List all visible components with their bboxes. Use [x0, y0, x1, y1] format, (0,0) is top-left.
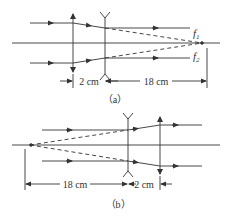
focal-point — [30, 144, 33, 147]
focus-label-f2: f2 — [193, 50, 200, 64]
optics-diagram: f1 f2 2 cm 18 cm （a） — [0, 0, 235, 222]
dim-label-2cm-a: 2 cm — [79, 76, 99, 87]
figure-a — [12, 12, 220, 88]
dim-label-2cm-b: 2 cm — [134, 179, 154, 190]
focal-point — [201, 42, 204, 45]
figure-b — [12, 113, 220, 190]
caption-b: （b） — [106, 199, 131, 210]
dim-label-18cm-a: 18 cm — [144, 76, 169, 87]
focus-label-f1: f1 — [193, 27, 200, 41]
caption-a: （a） — [103, 94, 127, 105]
dim-label-18cm-b: 18 cm — [63, 179, 88, 190]
